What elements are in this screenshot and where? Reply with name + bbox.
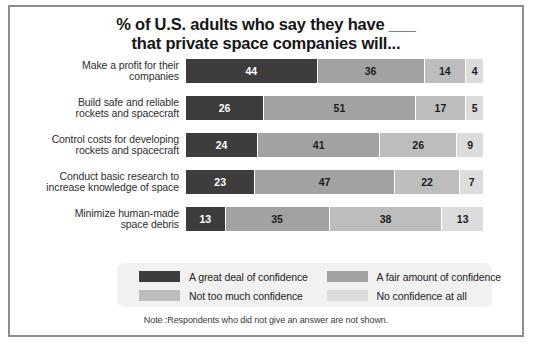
legend-row: Not too much confidence No confidence at… — [117, 287, 492, 304]
bar-segment-not-too-much: 38 — [329, 207, 442, 231]
bar-row: Conduct basic research to increase knowl… — [10, 170, 522, 194]
bars-area: Make a profit for their companies 44 36 … — [10, 59, 522, 244]
legend-item-no-confidence: No confidence at all — [305, 290, 493, 302]
bar-row-label: Control costs for developing rockets and… — [10, 134, 186, 157]
bar-segment-not-too-much: 26 — [379, 133, 456, 157]
title-line-1: % of U.S. adults who say they have ___ — [10, 15, 522, 34]
legend-row: A great deal of confidence A fair amount… — [117, 268, 492, 285]
bar-segment-fair-amount: 51 — [263, 96, 414, 120]
bar-row: Minimize human-made space debris 13 35 3… — [10, 207, 522, 231]
bar-row-label: Minimize human-made space debris — [10, 208, 186, 231]
bar-segment-great-deal: 13 — [186, 207, 225, 231]
bar-segment-no-confidence: 5 — [465, 96, 483, 120]
legend-label: A fair amount of confidence — [377, 271, 502, 283]
legend-label: A great deal of confidence — [189, 271, 308, 283]
bar-segment-great-deal: 23 — [186, 170, 254, 194]
legend-label: No confidence at all — [377, 290, 467, 302]
bar-segment-great-deal: 26 — [186, 96, 263, 120]
chart-legend: A great deal of confidence A fair amount… — [117, 263, 492, 307]
legend-swatch-icon — [327, 290, 368, 301]
legend-swatch-icon — [139, 271, 180, 282]
bar-row: Control costs for developing rockets and… — [10, 133, 522, 157]
bar-segment-not-too-much: 14 — [424, 59, 466, 83]
bar-segment-not-too-much: 17 — [415, 96, 465, 120]
bar-track: 26 51 17 5 — [186, 96, 483, 120]
bar-segment-not-too-much: 22 — [394, 170, 459, 194]
legend-item-not-too-much: Not too much confidence — [117, 290, 305, 302]
bar-row-label: Build safe and reliable rockets and spac… — [10, 97, 186, 120]
legend-item-great-deal: A great deal of confidence — [117, 271, 305, 283]
page-title: % of U.S. adults who say they have ___ t… — [10, 7, 522, 53]
chart-footnote: Note :Respondents who did not give an an… — [10, 315, 522, 325]
bar-segment-no-confidence: 7 — [459, 170, 483, 194]
bar-track: 44 36 14 4 — [186, 59, 483, 83]
bar-row: Build safe and reliable rockets and spac… — [10, 96, 522, 120]
bar-row: Make a profit for their companies 44 36 … — [10, 59, 522, 83]
bar-row-label-line: companies — [10, 71, 179, 83]
bar-segment-great-deal: 24 — [186, 133, 257, 157]
bar-segment-no-confidence: 13 — [441, 207, 483, 231]
chart-frame: % of U.S. adults who say they have ___ t… — [8, 5, 524, 337]
bar-row-label-line: space debris — [10, 219, 179, 231]
title-line-2: that private space companies will... — [10, 34, 522, 53]
legend-item-fair-amount: A fair amount of confidence — [305, 271, 493, 283]
bar-segment-fair-amount: 36 — [317, 59, 424, 83]
legend-swatch-icon — [327, 271, 368, 282]
bar-row-label-line: rockets and spacecraft — [10, 108, 179, 120]
bar-segment-fair-amount: 47 — [254, 170, 394, 194]
bar-row-label-line: increase knowledge of space — [10, 182, 179, 194]
bar-segment-fair-amount: 35 — [225, 207, 329, 231]
bar-segment-no-confidence: 4 — [465, 59, 483, 83]
bar-segment-no-confidence: 9 — [456, 133, 483, 157]
bar-track: 23 47 22 7 — [186, 170, 483, 194]
bar-row-label: Make a profit for their companies — [10, 60, 186, 83]
bar-track: 24 41 26 9 — [186, 133, 483, 157]
bar-segment-fair-amount: 41 — [257, 133, 379, 157]
bar-segment-great-deal: 44 — [186, 59, 317, 83]
legend-label: Not too much confidence — [189, 290, 303, 302]
bar-row-label: Conduct basic research to increase knowl… — [10, 171, 186, 194]
legend-swatch-icon — [139, 290, 180, 301]
bar-row-label-line: rockets and spacecraft — [10, 145, 179, 157]
bar-track: 13 35 38 13 — [186, 207, 483, 231]
